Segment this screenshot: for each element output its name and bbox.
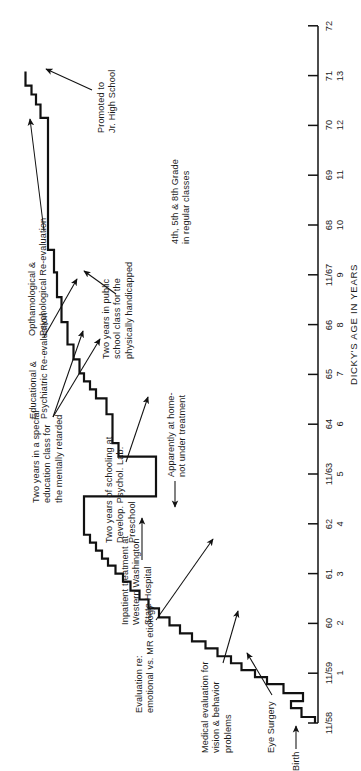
axis-tick-8: 668 (324, 305, 346, 345)
axis-tick-11: 6911 (324, 155, 346, 195)
axis-tick-0: 11/58 (324, 703, 335, 743)
annotation-inpatient: Inpatient treatment at Western Washingto… (120, 536, 154, 625)
annotation-regular-classes: 4th, 5th & 8th Grade in regular classes (170, 159, 193, 244)
leader-ophthal-eval (30, 119, 44, 231)
axis-tick-1: 11/591 (324, 653, 346, 693)
x-axis-title: DICKY'S AGE IN YEARS (348, 264, 359, 385)
case-history-figure: 11/58 11/591 602 613 624 11/635 646 657 … (0, 0, 361, 771)
annotation-leaders (30, 69, 296, 749)
leader-eye-surgery (247, 653, 272, 695)
annotation-public-school: Two years in public school class for the… (101, 262, 135, 359)
axis-tick-13: 7113 (324, 56, 346, 96)
annotation-promoted: Promoted to Jr. High School (96, 70, 119, 133)
chart-graphics (0, 0, 361, 771)
axis-tick-4: 624 (324, 504, 346, 544)
axis-tick-2: 602 (324, 603, 346, 643)
axis-tick-10: 6810 (324, 205, 346, 245)
axis-tick-6: 646 (324, 404, 346, 444)
axis-ticks (308, 26, 318, 723)
annotation-birth: Birth (291, 752, 302, 771)
axis-tick-7: 657 (324, 354, 346, 394)
axis-tick-5: 11/635 (324, 454, 346, 494)
axis-tick-9: 11/679 (324, 255, 346, 295)
plot-area: 11/58 11/591 602 613 624 11/635 646 657 … (0, 0, 361, 771)
annotation-preschool: Two years of schooling at Develop. Psych… (104, 437, 138, 543)
leader-etiology-eval (156, 539, 213, 620)
x-axis (308, 26, 318, 723)
annotation-eye-surgery: Eye Surgery (266, 701, 277, 753)
leader-promoted (46, 69, 92, 90)
annotation-at-home: Apparently at home- not under treatment (166, 392, 189, 477)
annotation-special-ed: Two years in a special education class f… (31, 410, 65, 503)
axis-tick-3: 613 (324, 554, 346, 594)
annotation-medical-eval: Medical evaluation for vision & behavior… (200, 661, 234, 753)
axis-tick-14: 72 (324, 6, 335, 46)
annotation-ophthal-eval: Opthamological & Psychological Re-evalua… (27, 218, 50, 336)
axis-tick-12: 7012 (324, 105, 346, 145)
